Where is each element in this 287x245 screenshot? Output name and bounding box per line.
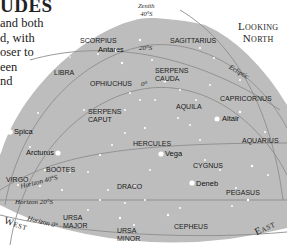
constellation-aquila: AQUILA [176, 103, 202, 111]
ursa-minor-line1: URSA [117, 227, 140, 235]
intro-line: een [0, 60, 53, 75]
serpens-cauda-line2: CAUDA [155, 75, 188, 83]
constellation-serpens-cauda: SERPENS CAUDA [155, 67, 188, 83]
intro-line: nd [0, 74, 53, 89]
ursa-minor-line2: MINOR [117, 235, 140, 243]
serpens-caput-line1: SERPENS [88, 108, 121, 116]
intro-line: oser to [0, 45, 53, 60]
ursa-major-line2: MAJOR [63, 222, 88, 230]
constellation-cygnus: CYGNUS [193, 162, 223, 170]
star-spica: Spica [14, 128, 33, 136]
zenith-label: Zenith 40°S [138, 2, 155, 18]
horizon-20-label: Horizon 20°S [15, 198, 53, 206]
intro-line: d, with [0, 31, 53, 46]
star-arcturus: Arcturus [26, 149, 54, 157]
constellation-ursa-minor: URSA MINOR [117, 227, 140, 243]
zenith-text: Zenith [138, 2, 155, 10]
constellation-capricornus: CAPRICORNUS [220, 95, 272, 103]
constellation-aquarius: AQUARIUS [242, 137, 279, 145]
looking-north-label: Looking North [238, 20, 278, 44]
star-antares: Antares [98, 46, 124, 54]
intro-line: and both [0, 16, 53, 31]
constellation-hercules: HERCULES [133, 140, 171, 148]
constellation-serpens-caput: SERPENS CAPUT [88, 108, 121, 124]
constellation-scorpius: SCORPIUS [80, 37, 117, 45]
constellation-ophiuchus: OPHIUCHUS [90, 80, 132, 88]
intro-text: UDES and both d, with oser to een nd [0, 0, 53, 89]
constellation-sagittarius: SAGITTARIUS [170, 37, 216, 45]
dec-20-label: 20°S [139, 44, 152, 52]
star-altair: Altair [222, 115, 239, 123]
serpens-caput-line2: CAPUT [88, 116, 121, 124]
constellation-bootes: BOÖTES [46, 166, 75, 174]
constellation-draco: DRACO [117, 183, 142, 191]
dec-0-label: 0° [141, 80, 147, 88]
zenith-value: 40°S [138, 10, 155, 18]
constellation-virgo: VIRGO [6, 176, 29, 184]
constellation-ursa-major: URSA MAJOR [63, 214, 88, 230]
constellation-pegasus: PEGASUS [226, 189, 260, 197]
star-deneb: Deneb [196, 180, 218, 188]
north-text: North [238, 32, 278, 44]
intro-heading: UDES [0, 0, 53, 16]
looking-text: Looking [238, 20, 278, 32]
constellation-libra: LIBRA [54, 69, 74, 77]
ursa-major-line1: URSA [63, 214, 88, 222]
constellation-cepheus: CEPHEUS [174, 223, 208, 231]
serpens-cauda-line1: SERPENS [155, 67, 188, 75]
star-vega: Vega [165, 150, 182, 158]
